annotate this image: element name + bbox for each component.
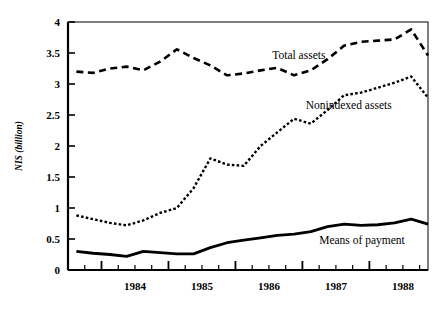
y-tick-label: 4 bbox=[55, 16, 61, 28]
x-tick-label: 1988 bbox=[392, 280, 415, 292]
x-tick-label: 1987 bbox=[325, 280, 348, 292]
y-tick-label: 2 bbox=[55, 140, 61, 152]
series-label-means-of-payment: Means of payment bbox=[319, 234, 405, 247]
y-tick-label: 0 bbox=[55, 264, 61, 276]
y-tick-label: 1.5 bbox=[46, 171, 60, 183]
chart-background bbox=[0, 0, 442, 309]
y-tick-label: 3.5 bbox=[46, 47, 60, 59]
y-tick-label: 0.5 bbox=[46, 233, 60, 245]
x-tick-label: 1986 bbox=[258, 280, 281, 292]
series-label-nonindexed-assets: Nonindexed assets bbox=[306, 99, 392, 111]
y-axis-title: NIS (billion) bbox=[14, 121, 25, 172]
series-label-total-assets: Total assets bbox=[272, 49, 326, 61]
line-chart: 00.511.522.533.54 19841985198619871988 T… bbox=[0, 0, 442, 309]
x-tick-label: 1984 bbox=[124, 280, 147, 292]
y-tick-label: 2.5 bbox=[46, 109, 60, 121]
y-tick-label: 3 bbox=[55, 78, 61, 90]
y-tick-label: 1 bbox=[55, 202, 61, 214]
chart-container: 00.511.522.533.54 19841985198619871988 T… bbox=[0, 0, 442, 309]
x-tick-label: 1985 bbox=[191, 280, 214, 292]
